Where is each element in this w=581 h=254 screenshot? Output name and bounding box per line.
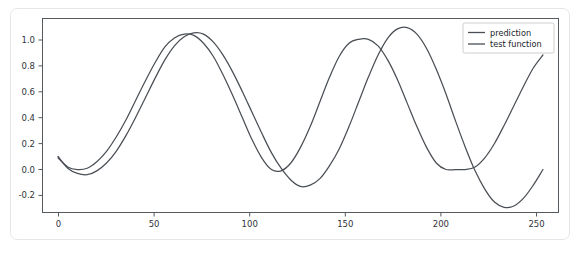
y-tick-label: 0.4 xyxy=(21,113,35,123)
y-axis: 1.0 0.8 0.6 0.4 xyxy=(18,35,42,200)
x-tick-label: 50 xyxy=(149,219,160,229)
y-tick-label: 0.8 xyxy=(21,61,35,71)
x-tick-group: 200 xyxy=(433,213,449,230)
x-axis: 0 50 100 150 xyxy=(56,213,545,230)
y-tick-label: 0.2 xyxy=(21,139,35,149)
series-group xyxy=(58,27,543,207)
x-tick-group: 100 xyxy=(242,213,258,230)
y-tick-group: 1.0 xyxy=(21,35,42,45)
y-tick-label: -0.2 xyxy=(18,190,35,200)
series-line-test-function xyxy=(58,34,543,172)
x-tick-label: 150 xyxy=(337,219,353,229)
plot-area: 1.0 0.8 0.6 0.4 xyxy=(11,9,571,241)
y-tick-group: 0.2 xyxy=(21,139,42,149)
legend-label-prediction: prediction xyxy=(490,28,531,38)
line-chart: 1.0 0.8 0.6 0.4 xyxy=(11,9,571,241)
x-tick-group: 150 xyxy=(337,213,353,230)
legend-label-test-function: test function xyxy=(490,39,542,49)
x-tick-group: 250 xyxy=(528,213,544,230)
y-tick-group: 0.0 xyxy=(21,165,42,175)
figure-card: 1.0 0.8 0.6 0.4 xyxy=(10,8,570,240)
x-tick-group: 50 xyxy=(149,213,160,230)
x-tick-label: 100 xyxy=(242,219,258,229)
legend[interactable]: prediction test function xyxy=(463,23,554,53)
x-tick-label: 250 xyxy=(528,219,544,229)
y-tick-label: 0.6 xyxy=(21,87,35,97)
screenshot-root: 1.0 0.8 0.6 0.4 xyxy=(0,0,581,254)
y-tick-label: 1.0 xyxy=(21,35,35,45)
x-tick-group: 0 xyxy=(56,213,61,230)
x-tick-label: 0 xyxy=(56,219,61,229)
y-tick-group: 0.6 xyxy=(21,87,42,97)
y-tick-group: -0.2 xyxy=(18,190,42,200)
y-tick-label: 0.0 xyxy=(21,165,35,175)
x-tick-label: 200 xyxy=(433,219,449,229)
y-tick-group: 0.4 xyxy=(21,113,42,123)
y-tick-group: 0.8 xyxy=(21,61,42,71)
series-line-prediction xyxy=(58,27,543,207)
